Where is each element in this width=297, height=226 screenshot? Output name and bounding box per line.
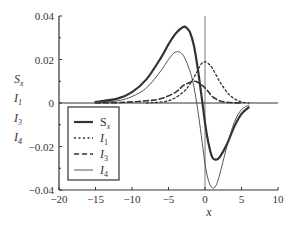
y-axis-label-sx: Sx	[14, 72, 24, 88]
y-tick-label: −0.02	[29, 141, 54, 153]
tick-labels: −20−15−10−505100.040.020−0.02−0.04	[29, 10, 284, 205]
y-axis-label-i1: I1	[13, 91, 22, 107]
x-tick-label: 5	[239, 193, 245, 205]
x-tick-label: −5	[163, 193, 175, 205]
x-axis-label: x	[205, 205, 212, 219]
y-tick-label: −0.04	[29, 184, 55, 196]
y-axis-label-stack: SxI1I3I4	[13, 72, 24, 146]
x-tick-label: 0	[202, 193, 208, 205]
y-tick-label: 0	[49, 97, 55, 109]
legend: SxI1I3I4	[68, 107, 119, 180]
y-axis-label-i4: I4	[13, 130, 22, 146]
x-tick-label: −15	[87, 193, 105, 205]
x-tick-label: −10	[123, 193, 141, 205]
legend-box	[68, 107, 119, 180]
y-tick-label: 0.02	[35, 54, 54, 66]
y-tick-label: 0.04	[35, 10, 55, 22]
x-tick-label: 10	[273, 193, 285, 205]
chart: −20−15−10−505100.040.020−0.02−0.04 SxI1I…	[0, 0, 297, 226]
series-i3	[96, 81, 242, 103]
y-axis-label-i3: I3	[13, 111, 22, 127]
